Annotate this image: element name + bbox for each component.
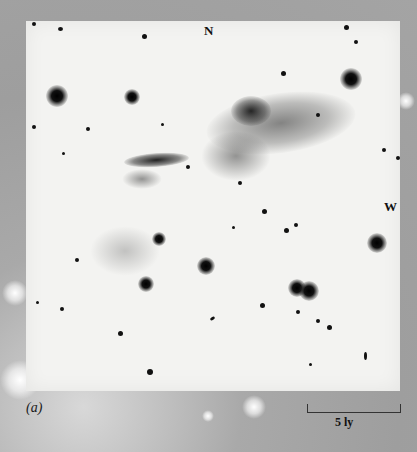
- star: [354, 40, 358, 44]
- star: [309, 363, 312, 366]
- star: [327, 325, 332, 330]
- star: [281, 71, 286, 76]
- bright-star: [138, 276, 154, 292]
- star: [75, 258, 79, 262]
- star: [142, 34, 147, 39]
- star: [316, 319, 320, 323]
- star: [118, 331, 123, 336]
- star: [232, 226, 235, 229]
- bright-star: [197, 257, 215, 275]
- star: [316, 113, 320, 117]
- star: [344, 25, 349, 30]
- astronomical-plate-image: N W: [26, 21, 400, 391]
- panel-label: (a): [26, 400, 42, 416]
- star: [60, 307, 64, 311]
- bright-star: [152, 232, 166, 246]
- background-star: [242, 395, 266, 419]
- bright-star: [367, 233, 387, 253]
- star: [32, 125, 36, 129]
- star: [86, 127, 90, 131]
- background-star: [202, 410, 214, 422]
- star: [260, 303, 265, 308]
- star: [32, 22, 36, 26]
- star: [36, 301, 39, 304]
- star: [364, 352, 367, 360]
- bright-star: [124, 89, 140, 105]
- scale-bar-label: 5 ly: [335, 415, 353, 430]
- star: [186, 165, 190, 169]
- nebula-filament: [201, 131, 271, 181]
- scale-bar: [307, 404, 401, 413]
- nebula-core: [231, 96, 271, 126]
- nebula-streak-lower: [122, 169, 162, 189]
- star: [62, 152, 65, 155]
- star: [382, 148, 386, 152]
- star: [58, 27, 63, 31]
- compass-north-label: N: [204, 23, 213, 39]
- background-star: [2, 280, 28, 306]
- compass-west-label: W: [384, 199, 397, 215]
- star: [161, 123, 164, 126]
- star: [294, 223, 298, 227]
- star: [396, 156, 400, 160]
- star: [147, 369, 153, 375]
- star: [284, 228, 289, 233]
- star: [296, 310, 300, 314]
- star: [262, 209, 267, 214]
- bright-star: [299, 281, 319, 301]
- bright-star: [340, 68, 362, 90]
- bright-star: [46, 85, 68, 107]
- star: [210, 316, 216, 321]
- faint-nebula: [90, 226, 160, 276]
- nebula-streak: [124, 151, 190, 170]
- star: [238, 181, 242, 185]
